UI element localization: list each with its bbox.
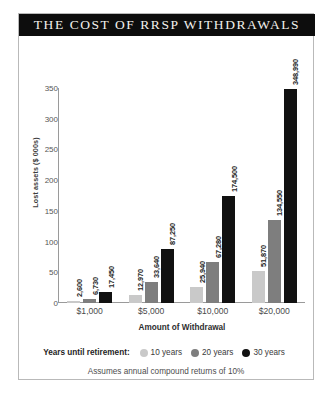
bar-slot: 25,940 <box>190 88 203 303</box>
bar-value-label: 174,500 <box>230 166 239 192</box>
bar-value-label: 17,450 <box>107 266 116 288</box>
bar[interactable] <box>83 299 96 303</box>
x-axis-label: Amount of Withdrawal <box>59 323 305 332</box>
bar-group: 12,97033,64087,250 <box>121 88 183 303</box>
x-axis-tick-label: $20,000 <box>244 306 306 316</box>
x-axis-tick-label: $1,000 <box>59 306 121 316</box>
bar-slot: 51,870 <box>252 88 265 303</box>
bar-slot: 17,450 <box>99 88 112 303</box>
bar-slot: 67,280 <box>206 88 219 303</box>
legend-item[interactable]: 10 years <box>140 348 182 357</box>
legend-item[interactable]: 20 years <box>191 348 233 357</box>
legend-label: 30 years <box>253 348 284 357</box>
legend-swatch-icon <box>242 349 250 357</box>
bar[interactable] <box>206 262 219 303</box>
legend-label: 10 years <box>151 348 182 357</box>
bar-group: 51,870134,550348,990 <box>244 88 306 303</box>
y-axis-tick-label: 200 <box>24 176 58 185</box>
legend-item[interactable]: 30 years <box>242 348 284 357</box>
chart-legend: Years until retirement: 10 years20 years… <box>19 348 313 357</box>
bar[interactable] <box>67 301 80 303</box>
x-axis-tick-label: $5,000 <box>121 306 183 316</box>
bar-groups: 2,6006,73017,45012,97033,64087,25025,940… <box>59 88 305 303</box>
bar-group: 2,6006,73017,450 <box>59 88 121 303</box>
bar-slot: 348,990 <box>284 88 297 303</box>
bar[interactable] <box>222 196 235 303</box>
legend-label: 20 years <box>202 348 233 357</box>
plot-area: Lost assets ($ 000s) 0501001502002503003… <box>19 36 313 379</box>
legend-swatch-icon <box>140 349 148 357</box>
bar-slot: 12,970 <box>129 88 142 303</box>
y-axis-tick-label: 300 <box>24 114 58 123</box>
bar-slot: 6,730 <box>83 88 96 303</box>
bar[interactable] <box>161 249 174 303</box>
x-axis-ticks: $1,000$5,000$10,000$20,000 <box>59 306 305 316</box>
bar-slot: 87,250 <box>161 88 174 303</box>
bar[interactable] <box>99 292 112 303</box>
y-axis-tick-label: 100 <box>24 237 58 246</box>
bar[interactable] <box>190 287 203 303</box>
bar[interactable] <box>284 89 297 303</box>
bar-slot: 174,500 <box>222 88 235 303</box>
bar-value-label: 87,250 <box>168 223 177 245</box>
chart-title-band: THE COST OF RRSP WITHDRAWALS <box>19 14 315 36</box>
y-axis-tick-label: 150 <box>24 206 58 215</box>
y-axis-tick-label: 0 <box>24 299 58 308</box>
y-axis-tick-label: 50 <box>24 268 58 277</box>
bar-group: 25,94067,280174,500 <box>182 88 244 303</box>
bar[interactable] <box>145 282 158 303</box>
y-axis-ticks: 050100150200250300350 <box>19 36 58 379</box>
legend-title: Years until retirement: <box>43 348 129 357</box>
legend-swatch-icon <box>191 349 199 357</box>
bar[interactable] <box>252 271 265 303</box>
bar-slot: 134,550 <box>268 88 281 303</box>
chart-title: THE COST OF RRSP WITHDRAWALS <box>34 18 300 32</box>
bar-slot: 2,600 <box>67 88 80 303</box>
y-axis-tick-label: 250 <box>24 145 58 154</box>
bar-value-label: 348,990 <box>291 59 300 85</box>
y-axis-tick-label: 350 <box>24 84 58 93</box>
chart-figure: THE COST OF RRSP WITHDRAWALS Lost assets… <box>18 13 314 380</box>
chart-footnote: Assumes annual compound returns of 10% <box>19 367 313 376</box>
x-axis-tick-label: $10,000 <box>182 306 244 316</box>
bar[interactable] <box>268 220 281 303</box>
bar[interactable] <box>129 295 142 303</box>
bar-slot: 33,640 <box>145 88 158 303</box>
